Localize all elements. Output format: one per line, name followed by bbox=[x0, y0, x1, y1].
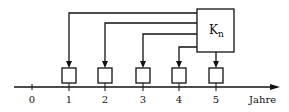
axis-label: Jahre bbox=[248, 94, 276, 105]
arrowhead-5 bbox=[213, 61, 219, 68]
tick-label-1: 1 bbox=[66, 94, 72, 105]
arrowhead-4 bbox=[176, 61, 182, 68]
connector-4 bbox=[179, 47, 197, 62]
tick-label-0: 0 bbox=[29, 94, 35, 105]
annuity-diagram: 0 1 2 3 4 5 Jahre Kn bbox=[0, 0, 289, 112]
tick-label-4: 4 bbox=[176, 94, 182, 105]
tick-label-2: 2 bbox=[102, 94, 108, 105]
payment-box-2 bbox=[98, 68, 112, 83]
tick-label-5: 5 bbox=[213, 94, 219, 105]
payment-box-3 bbox=[136, 68, 150, 83]
tick-label-3: 3 bbox=[140, 94, 146, 105]
connector-2 bbox=[105, 23, 197, 62]
payment-box-5 bbox=[209, 68, 223, 83]
payment-box-4 bbox=[172, 68, 186, 83]
payment-box-1 bbox=[62, 68, 76, 83]
arrowhead-3 bbox=[140, 61, 146, 68]
connector-1 bbox=[69, 13, 197, 62]
arrowhead-2 bbox=[102, 61, 108, 68]
arrowhead-1 bbox=[66, 61, 72, 68]
connector-3 bbox=[143, 34, 197, 62]
axis-arrowhead bbox=[270, 84, 280, 90]
